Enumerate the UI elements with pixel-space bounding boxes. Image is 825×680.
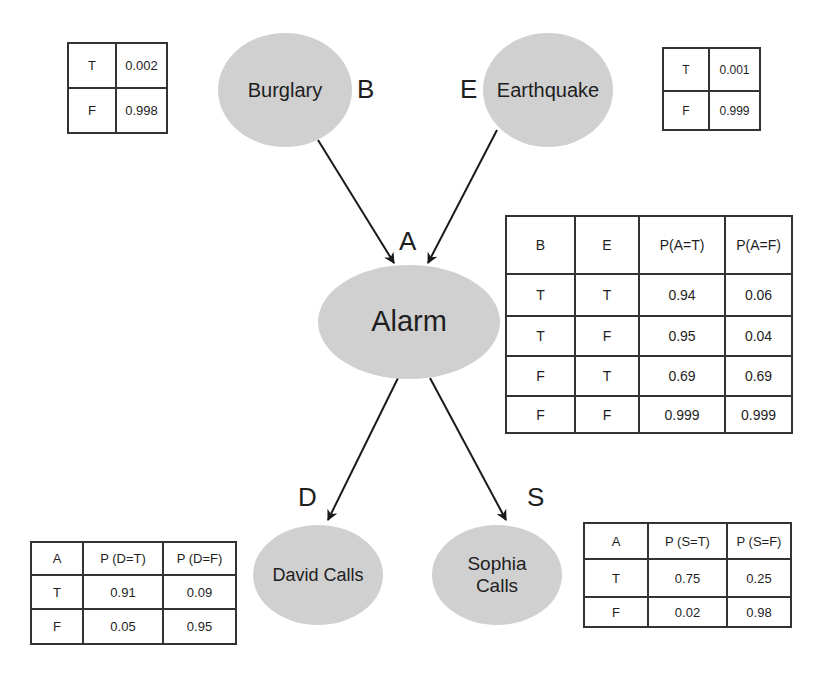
node-sophia-calls: Sophia Calls [432, 525, 562, 625]
cell: T [575, 274, 639, 316]
cell: 0.69 [725, 356, 792, 396]
cell: 0.94 [639, 274, 725, 316]
header-cell: P (S=T) [648, 523, 727, 559]
node-alarm: Alarm [318, 265, 500, 379]
sophia-calls-cpt: A P (S=T) P (S=F) T 0.75 0.25 F 0.02 0.9… [583, 522, 792, 628]
node-sophia-name-line2: Calls [476, 575, 518, 597]
cell: F [575, 316, 639, 356]
cell: T [663, 48, 709, 91]
header-cell: A [584, 523, 648, 559]
header-cell: P (D=F) [163, 542, 236, 575]
alarm-cpt: B E P(A=T) P(A=F) T T 0.94 0.06 T F 0.95… [505, 215, 793, 434]
symbol-b: B [357, 76, 374, 102]
cell: 0.04 [725, 316, 792, 356]
cell: 0.05 [83, 609, 163, 644]
table-row: F 0.05 0.95 [31, 609, 236, 644]
cell: 0.09 [163, 575, 236, 609]
cell: 0.999 [709, 91, 760, 130]
edge-alarm-sophia [430, 378, 506, 520]
david-calls-cpt: A P (D=T) P (D=F) T 0.91 0.09 F 0.05 0.9… [30, 541, 237, 645]
cell: 0.69 [639, 356, 725, 396]
table-header-row: B E P(A=T) P(A=F) [506, 216, 792, 274]
table-row: T 0.75 0.25 [584, 559, 791, 597]
edge-earthquake-alarm [428, 130, 497, 263]
table-row: F T 0.69 0.69 [506, 356, 792, 396]
header-cell: A [31, 542, 83, 575]
earthquake-cpt: T 0.001 F 0.999 [662, 47, 761, 131]
table-row: F 0.02 0.98 [584, 597, 791, 627]
cell: T [575, 356, 639, 396]
cell: 0.75 [648, 559, 727, 597]
node-burglary: Burglary [218, 33, 352, 147]
cell: 0.999 [639, 396, 725, 433]
cell: 0.001 [709, 48, 760, 91]
cell: F [68, 88, 116, 133]
cell: 0.999 [725, 396, 792, 433]
cell: 0.06 [725, 274, 792, 316]
cell: T [506, 274, 575, 316]
table-row: F F 0.999 0.999 [506, 396, 792, 433]
symbol-e: E [460, 76, 477, 102]
node-david-name: David Calls [272, 565, 363, 586]
edge-alarm-david [328, 378, 398, 520]
cell: F [506, 356, 575, 396]
node-burglary-name: Burglary [248, 79, 322, 102]
cell: F [575, 396, 639, 433]
table-row: T 0.91 0.09 [31, 575, 236, 609]
cell: F [31, 609, 83, 644]
header-cell: P (S=F) [727, 523, 791, 559]
cell: 0.002 [116, 43, 167, 88]
header-cell: P(A=F) [725, 216, 792, 274]
header-cell: E [575, 216, 639, 274]
symbol-s: S [527, 484, 544, 510]
cell: 0.95 [163, 609, 236, 644]
header-cell: B [506, 216, 575, 274]
node-earthquake: Earthquake [483, 33, 613, 147]
table-row: T T 0.94 0.06 [506, 274, 792, 316]
cell: 0.998 [116, 88, 167, 133]
table-header-row: A P (D=T) P (D=F) [31, 542, 236, 575]
node-sophia-name-line1: Sophia [467, 553, 526, 575]
header-cell: P (D=T) [83, 542, 163, 575]
cell: 0.25 [727, 559, 791, 597]
cell: 0.91 [83, 575, 163, 609]
table-row: T F 0.95 0.04 [506, 316, 792, 356]
cell: 0.02 [648, 597, 727, 627]
symbol-d: D [298, 484, 317, 510]
edge-burglary-alarm [318, 140, 394, 263]
cell: T [31, 575, 83, 609]
cell: 0.98 [727, 597, 791, 627]
node-earthquake-name: Earthquake [497, 79, 599, 102]
node-alarm-name: Alarm [371, 305, 447, 338]
cell: T [68, 43, 116, 88]
burglary-cpt: T 0.002 F 0.998 [67, 42, 168, 134]
cell: T [506, 316, 575, 356]
cell: 0.95 [639, 316, 725, 356]
node-david-calls: David Calls [253, 525, 383, 625]
header-cell: P(A=T) [639, 216, 725, 274]
symbol-a: A [399, 228, 416, 254]
cell: F [584, 597, 648, 627]
cell: F [663, 91, 709, 130]
table-header-row: A P (S=T) P (S=F) [584, 523, 791, 559]
cell: F [506, 396, 575, 433]
cell: T [584, 559, 648, 597]
